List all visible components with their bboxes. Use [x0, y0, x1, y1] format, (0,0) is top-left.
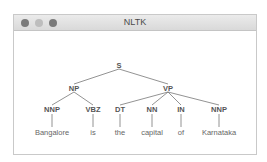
tree-leaf-word[interactable]: the	[115, 128, 125, 137]
tree-edges	[14, 31, 258, 156]
parse-tree-canvas: S NP VP NNP VBZ DT NN IN NNP Bangalore i…	[14, 31, 256, 156]
tree-leaf-word[interactable]: capital	[141, 128, 163, 137]
tree-leaf-word[interactable]: of	[178, 128, 184, 137]
tree-node-pos[interactable]: VBZ	[86, 105, 101, 114]
tree-leaf-word[interactable]: Bangalore	[35, 128, 69, 137]
window-title: NLTK	[14, 17, 256, 27]
title-bar[interactable]: NLTK	[14, 15, 256, 31]
tree-node-pos[interactable]: NN	[147, 105, 158, 114]
tree-node-np[interactable]: NP	[69, 84, 79, 93]
tree-node-pos[interactable]: DT	[115, 105, 125, 114]
tree-node-s[interactable]: S	[116, 61, 121, 70]
tree-node-pos[interactable]: NNP	[44, 105, 60, 114]
tree-leaf-word[interactable]: is	[90, 128, 95, 137]
tree-node-pos[interactable]: IN	[177, 105, 185, 114]
tree-node-vp[interactable]: VP	[163, 84, 173, 93]
tree-leaf-word[interactable]: Karnataka	[202, 128, 236, 137]
nltk-window: NLTK	[13, 14, 257, 155]
tree-node-pos[interactable]: NNP	[211, 105, 227, 114]
